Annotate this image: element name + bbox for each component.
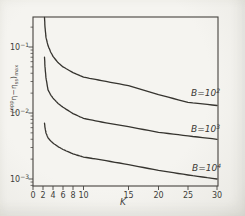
x-tick-label: 8 — [70, 191, 75, 200]
x-tick-label: 2 — [40, 191, 45, 200]
x-tick-label: 20 — [153, 191, 163, 200]
y-axis-label-suffix-subscript: max — [13, 65, 19, 76]
curve-label-B=1e4: B=104 — [192, 162, 221, 174]
x-tick-label: 10 — [78, 191, 88, 200]
curve-label-B=1e2: B=102 — [191, 87, 220, 99]
x-tick-label: 6 — [60, 191, 65, 200]
y-axis-label-close: ) — [9, 76, 18, 79]
figure: 10−110−210−3024681015202530B=102B=103B=1… — [0, 0, 245, 216]
curve-label-B=1e3: B=103 — [191, 123, 220, 135]
x-tick-label: 4 — [50, 191, 55, 200]
y-tick-label: 10−3 — [10, 173, 29, 185]
x-tick-label: 30 — [212, 191, 222, 200]
plot-contents: 10−110−210−3024681015202530B=102B=103B=1… — [10, 18, 222, 201]
y-axis-label: (appη−ηss)max — [4, 29, 18, 149]
y-axis-label-open: ( — [9, 110, 18, 113]
x-tick-label: 0 — [30, 191, 35, 200]
y-axis-label-subscript: ss — [13, 79, 19, 84]
x-tick-label: 25 — [183, 191, 193, 200]
chart-canvas: 10−110−210−3024681015202530B=102B=103B=1… — [0, 0, 245, 216]
y-axis-label-superscript: app — [8, 101, 14, 110]
y-axis-label-body: η−η — [9, 84, 18, 100]
plot-frame — [33, 17, 218, 186]
x-axis-label: K — [112, 197, 134, 207]
